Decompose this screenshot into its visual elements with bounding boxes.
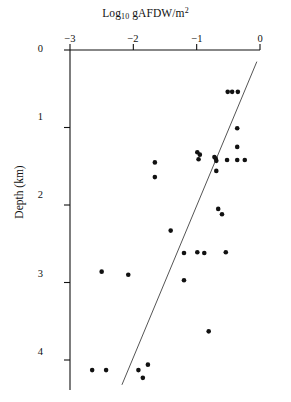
data-point-30 <box>136 368 141 373</box>
data-point-32 <box>141 376 146 381</box>
data-point-16 <box>153 175 158 180</box>
data-point-9 <box>235 145 240 150</box>
trendline-segment <box>122 62 257 385</box>
data-point-31 <box>146 362 151 367</box>
data-point-12 <box>225 158 230 163</box>
data-point-27 <box>206 329 211 334</box>
data-point-2 <box>236 90 241 95</box>
data-points <box>90 90 247 381</box>
data-point-24 <box>99 269 104 274</box>
data-point-3 <box>235 126 240 131</box>
data-point-19 <box>168 228 173 233</box>
plot-canvas <box>0 0 291 402</box>
data-point-21 <box>195 250 200 255</box>
data-point-14 <box>214 169 219 174</box>
data-point-18 <box>220 212 225 217</box>
y-axis-ticks <box>64 50 70 360</box>
data-point-20 <box>182 251 187 256</box>
data-point-22 <box>202 251 207 256</box>
data-point-26 <box>182 278 187 283</box>
data-point-25 <box>126 272 131 277</box>
data-point-0 <box>225 90 230 95</box>
data-point-13 <box>243 158 248 163</box>
data-point-28 <box>90 368 95 373</box>
x-axis-ticks <box>70 44 260 50</box>
scatter-plot-figure: Log10 gAFDW/m2 Depth (km) −3 −2 −1 0 0 1… <box>0 0 291 402</box>
data-point-23 <box>224 250 229 255</box>
data-point-17 <box>216 207 221 212</box>
data-point-15 <box>153 160 158 165</box>
data-point-5 <box>198 152 203 157</box>
data-point-8 <box>214 159 219 164</box>
data-point-1 <box>230 90 235 95</box>
data-point-29 <box>104 368 109 373</box>
data-point-10 <box>196 157 201 162</box>
data-point-11 <box>235 158 240 163</box>
trendline <box>122 62 257 385</box>
